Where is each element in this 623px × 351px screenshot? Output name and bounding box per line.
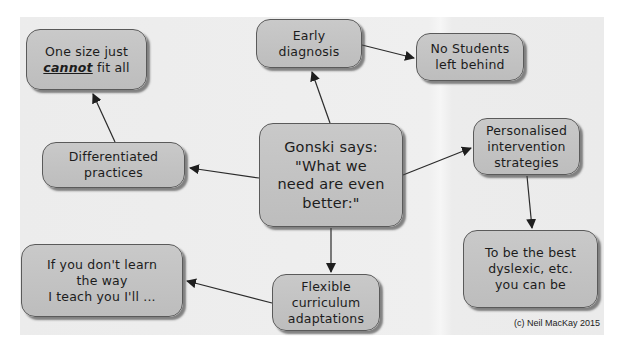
node-differentiated: Differentiated practices <box>42 142 185 188</box>
node-text-line: curriculum <box>288 295 364 311</box>
node-text-line: the way <box>47 273 157 289</box>
emphasis-cannot: cannot <box>43 60 92 75</box>
node-text-line: Differentiated <box>69 149 158 165</box>
node-text-line: strategies <box>486 155 567 171</box>
node-best-dyslexic: To be the best dyslexic, etc. you can be <box>463 230 598 308</box>
node-early-diagnosis: Early diagnosis <box>256 19 362 68</box>
edge-center-to-differentiated <box>190 168 259 178</box>
node-text-line: adaptations <box>288 311 364 327</box>
node-text-line: diagnosis <box>279 44 340 60</box>
node-text-line: I teach you I'll ... <box>47 289 157 305</box>
node-center-gonski: Gonski says: "What we need are even bett… <box>259 123 403 227</box>
node-one-size-line-2-rest: fit all <box>93 60 130 75</box>
node-text-line: need are even <box>277 175 384 194</box>
node-no-students: No Students left behind <box>416 33 524 81</box>
copyright-credit: (c) Neil MacKay 2015 <box>514 318 600 328</box>
node-one-size-line-2: cannot fit all <box>43 60 129 76</box>
edge-personalised-to-best <box>527 176 532 228</box>
edge-differentiated-to-one-size <box>93 94 115 142</box>
edge-center-to-early <box>312 72 330 123</box>
node-text-line: To be the best <box>485 245 576 261</box>
edge-flexible-to-if-you <box>187 281 272 303</box>
node-text-line: practices <box>69 165 158 181</box>
node-text-line: Personalised <box>486 123 567 139</box>
node-text-line: No Students <box>431 41 510 57</box>
node-text-line: better:" <box>277 194 384 213</box>
node-flexible-curriculum: Flexible curriculum adaptations <box>272 274 380 331</box>
node-one-size: One size just cannot fit all <box>26 29 147 90</box>
node-text-line: left behind <box>431 57 510 73</box>
node-personalised: Personalised intervention strategies <box>473 118 580 175</box>
node-text-line: Flexible <box>288 279 364 295</box>
node-if-you-dont-learn: If you don't learn the way I teach you I… <box>21 244 183 317</box>
node-one-size-line-1: One size just <box>43 44 129 60</box>
node-text-line: Early <box>279 28 340 44</box>
node-text-line: If you don't learn <box>47 257 157 273</box>
node-text-line: "What we <box>277 157 384 176</box>
edge-early-to-no-students <box>362 45 414 58</box>
node-text-line: dyslexic, etc. <box>485 261 576 277</box>
node-text-line: Gonski says: <box>277 138 384 157</box>
node-text-line: you can be <box>485 277 576 293</box>
node-text-line: intervention <box>486 139 567 155</box>
edge-center-to-personalised <box>403 148 471 175</box>
